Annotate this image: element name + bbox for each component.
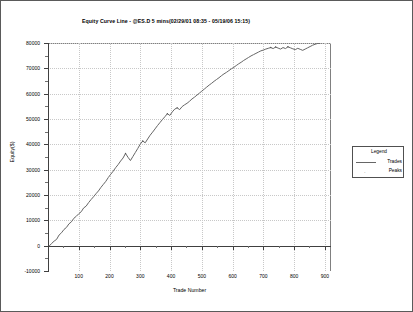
legend-label-trades: Trades	[387, 159, 402, 164]
peak-marker	[125, 153, 126, 154]
y-tick-label: 70000	[0, 65, 40, 71]
y-tick-minor	[45, 106, 48, 107]
y-tick	[44, 144, 49, 145]
y-tick-label: 50000	[0, 116, 40, 122]
y-tick	[44, 220, 49, 221]
peak-marker	[287, 46, 288, 47]
x-tick-minor	[186, 246, 187, 248]
x-tick-label: 100	[64, 273, 94, 279]
chart-window: Equity Curve Line - @ES.D 5 mins(02/29/0…	[0, 0, 413, 312]
y-tick-label: 40000	[0, 141, 40, 147]
point-swatch-icon: ·	[364, 170, 366, 175]
series-trades-line	[48, 43, 331, 271]
x-axis-line	[48, 246, 331, 247]
y-axis-line	[48, 43, 49, 271]
x-tick-label: 900	[310, 273, 340, 279]
x-tick-minor	[94, 246, 95, 248]
y-tick-minor	[45, 233, 48, 234]
y-tick-label: 10000	[0, 217, 40, 223]
peak-marker	[167, 113, 168, 114]
y-tick-label: 0	[0, 243, 40, 249]
x-tick-minor	[279, 246, 280, 248]
legend-title: Legend	[353, 149, 405, 154]
x-tick	[140, 246, 141, 250]
y-tick-minor	[45, 157, 48, 158]
x-tick	[202, 246, 203, 250]
x-tick-label: 600	[218, 273, 248, 279]
x-tick-minor	[217, 246, 218, 248]
legend-item-peaks: · Peaks	[353, 167, 405, 176]
x-tick	[171, 246, 172, 250]
peak-marker	[142, 140, 143, 141]
y-tick-label: 30000	[0, 167, 40, 173]
x-tick-label: 200	[95, 273, 125, 279]
y-tick-minor	[45, 208, 48, 209]
x-tick-minor	[63, 246, 64, 248]
x-tick-minor	[125, 246, 126, 248]
x-tick	[325, 246, 326, 250]
y-tick-label: 80000	[0, 40, 40, 46]
x-tick-label: 400	[156, 273, 186, 279]
x-tick	[110, 246, 111, 250]
legend-item-trades: Trades	[353, 158, 405, 167]
y-tick-label: 20000	[0, 192, 40, 198]
x-tick	[294, 246, 295, 250]
x-tick-minor	[309, 246, 310, 248]
x-tick-minor	[156, 246, 157, 248]
plot-area	[48, 43, 331, 271]
x-tick	[79, 246, 80, 250]
y-tick	[44, 170, 49, 171]
y-tick	[44, 43, 49, 44]
peak-marker	[177, 107, 178, 108]
x-tick-label: 500	[187, 273, 217, 279]
x-tick-label: 800	[279, 273, 309, 279]
x-tick	[233, 246, 234, 250]
peak-marker	[275, 46, 276, 47]
y-tick-label: 60000	[0, 91, 40, 97]
y-tick	[44, 119, 49, 120]
y-tick	[44, 94, 49, 95]
y-axis-title: Equity($)	[9, 127, 15, 177]
x-tick	[263, 246, 264, 250]
peak-marker	[270, 47, 271, 48]
legend-label-peaks: Peaks	[389, 168, 402, 173]
x-tick-label: 700	[248, 273, 278, 279]
y-tick-label: -10000	[0, 268, 40, 274]
y-tick	[44, 195, 49, 196]
y-tick-minor	[45, 258, 48, 259]
x-tick-label: 300	[125, 273, 155, 279]
y-tick-minor	[45, 182, 48, 183]
y-tick-minor	[45, 132, 48, 133]
x-tick-minor	[248, 246, 249, 248]
y-tick-minor	[45, 56, 48, 57]
legend: Legend Trades · Peaks	[352, 146, 404, 178]
y-tick	[44, 246, 49, 247]
y-tick	[44, 68, 49, 69]
peaks-markers	[125, 46, 289, 154]
x-axis-title: Trade Number	[48, 287, 331, 293]
y-tick	[44, 271, 49, 272]
chart-title: Equity Curve Line - @ES.D 5 mins(02/29/0…	[1, 18, 331, 24]
line-swatch-icon	[356, 162, 376, 163]
y-tick-minor	[45, 81, 48, 82]
